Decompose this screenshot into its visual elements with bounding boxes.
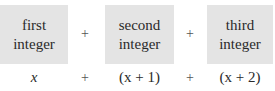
second-integer-box: second integer <box>105 5 174 64</box>
box-label-line1: third <box>219 16 261 35</box>
box-label-line1: first <box>13 16 55 35</box>
box-label-line2: integer <box>219 35 261 54</box>
box-label-line2: integer <box>13 35 55 54</box>
plus-operator: + <box>180 70 200 86</box>
plus-operator: + <box>180 26 200 42</box>
third-integer-box: third integer <box>207 5 273 64</box>
box-label-line1: second <box>119 16 161 35</box>
expression-first: x <box>0 69 68 86</box>
expression-text: x <box>31 69 38 85</box>
expression-text: (x + 2) <box>220 69 261 85</box>
plus-operator: + <box>75 70 95 86</box>
expression-second: (x + 1) <box>105 69 174 86</box>
first-integer-box: first integer <box>0 5 68 64</box>
expression-text: (x + 1) <box>119 69 160 85</box>
expression-third: (x + 2) <box>207 69 273 86</box>
box-label-line2: integer <box>119 35 161 54</box>
plus-operator: + <box>75 26 95 42</box>
